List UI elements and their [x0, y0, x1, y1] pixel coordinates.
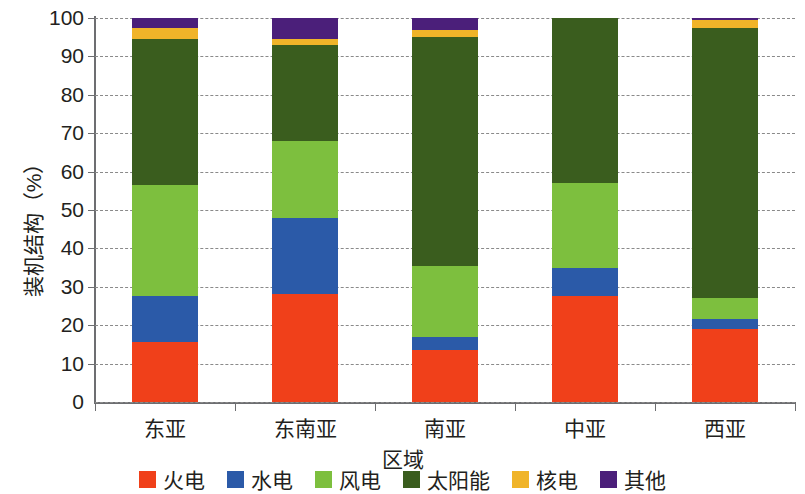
bar-stack[interactable]: [132, 18, 198, 402]
bar-stack[interactable]: [692, 18, 758, 402]
bar-segment[interactable]: [692, 28, 758, 299]
bar-segment[interactable]: [132, 185, 198, 296]
y-tick-mark: [88, 248, 95, 249]
legend-label: 风电: [339, 464, 381, 494]
legend-item[interactable]: 水电: [227, 464, 293, 494]
bar-segment[interactable]: [412, 266, 478, 337]
legend-item[interactable]: 风电: [315, 464, 381, 494]
bar-stack[interactable]: [272, 18, 338, 402]
legend-item[interactable]: 火电: [139, 464, 205, 494]
bar-segment[interactable]: [272, 18, 338, 39]
y-tick-mark: [88, 18, 95, 19]
legend-swatch-icon: [600, 471, 617, 488]
bar-segment[interactable]: [552, 268, 618, 297]
x-tick-mark: [375, 403, 376, 411]
bar-segment[interactable]: [692, 298, 758, 319]
bar-segment[interactable]: [272, 141, 338, 218]
x-tick-label: 南亚: [375, 412, 515, 442]
bar-segment[interactable]: [552, 183, 618, 267]
y-tick-label: 30: [14, 275, 84, 299]
bar-segment[interactable]: [412, 37, 478, 265]
x-tick-mark: [655, 403, 656, 411]
y-tick-mark: [88, 95, 95, 96]
x-tick-label: 东亚: [95, 412, 235, 442]
y-tick-mark: [88, 287, 95, 288]
y-tick-label: 60: [14, 160, 84, 184]
x-tick-label: 东南亚: [235, 412, 375, 442]
bar-segment[interactable]: [272, 39, 338, 45]
gridline: [95, 402, 795, 403]
bar-segment[interactable]: [692, 319, 758, 329]
bar-segment[interactable]: [552, 296, 618, 402]
bar-segment[interactable]: [272, 218, 338, 295]
bar-segment[interactable]: [412, 30, 478, 38]
legend-swatch-icon: [512, 471, 529, 488]
legend-label: 核电: [536, 464, 578, 494]
y-tick-mark: [88, 364, 95, 365]
bar-segment[interactable]: [272, 294, 338, 402]
y-tick-label: 100: [14, 6, 84, 30]
legend-label: 太阳能: [427, 464, 490, 494]
x-tick-mark: [95, 403, 96, 411]
legend-swatch-icon: [315, 471, 332, 488]
y-tick-label: 0: [14, 390, 84, 414]
y-tick-label: 90: [14, 44, 84, 68]
bar-segment[interactable]: [132, 296, 198, 342]
legend-label: 火电: [163, 464, 205, 494]
bar-segment[interactable]: [132, 342, 198, 402]
bar-segment[interactable]: [412, 350, 478, 402]
legend-item[interactable]: 核电: [512, 464, 578, 494]
plot-area: [95, 18, 795, 402]
bar-segment[interactable]: [552, 18, 618, 183]
y-tick-mark: [88, 172, 95, 173]
bar-segment[interactable]: [692, 329, 758, 402]
y-tick-label: 20: [14, 313, 84, 337]
legend-label: 其他: [624, 464, 666, 494]
bar-segment[interactable]: [132, 18, 198, 28]
bar-segment[interactable]: [132, 28, 198, 40]
bar-stack[interactable]: [552, 18, 618, 402]
legend-label: 水电: [251, 464, 293, 494]
legend-swatch-icon: [227, 471, 244, 488]
bar-segment[interactable]: [412, 337, 478, 350]
y-tick-label: 70: [14, 121, 84, 145]
y-tick-mark: [88, 133, 95, 134]
x-tick-mark: [235, 403, 236, 411]
legend-item[interactable]: 其他: [600, 464, 666, 494]
y-tick-label: 40: [14, 236, 84, 260]
y-tick-label: 10: [14, 352, 84, 376]
legend-swatch-icon: [139, 471, 156, 488]
x-tick-mark: [795, 403, 796, 411]
y-tick-mark: [88, 210, 95, 211]
y-tick-mark: [88, 325, 95, 326]
bar-segment[interactable]: [412, 18, 478, 30]
y-tick-label: 50: [14, 198, 84, 222]
bar-segment[interactable]: [692, 20, 758, 28]
y-tick-mark: [88, 56, 95, 57]
legend-item[interactable]: 太阳能: [403, 464, 490, 494]
bar-stack[interactable]: [412, 18, 478, 402]
y-tick-label: 80: [14, 83, 84, 107]
x-tick-mark: [515, 403, 516, 411]
x-tick-label: 西亚: [655, 412, 795, 442]
legend-swatch-icon: [403, 471, 420, 488]
x-tick-label: 中亚: [515, 412, 655, 442]
bar-segment[interactable]: [272, 45, 338, 141]
bar-segment[interactable]: [132, 39, 198, 185]
chart-legend: 火电水电风电太阳能核电其他: [0, 464, 805, 494]
bar-segment[interactable]: [692, 18, 758, 20]
